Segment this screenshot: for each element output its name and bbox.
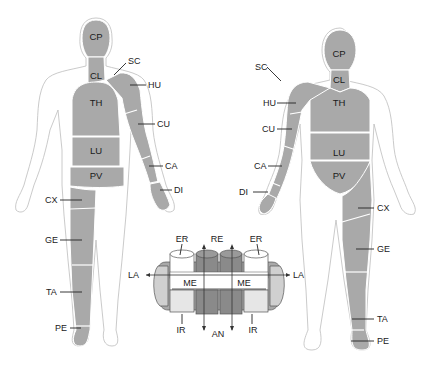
ring-label-LA-left: LA [128,270,139,280]
callout-GE: GE [45,235,58,245]
back-figure [16,18,175,346]
callout-SC: SC [128,56,141,66]
label-CL: CL [90,70,102,81]
callout-TA: TA [377,314,388,324]
label-LU: LU [333,147,345,158]
label-CP: CP [332,48,345,59]
callout-SC: SC [255,62,268,72]
label-PV: PV [333,170,346,181]
callout-HU: HU [263,98,276,108]
ring-label-IR-left: IR [177,325,187,335]
callout-PE: PE [377,336,389,346]
ring-label-IR-right: IR [249,325,259,335]
callout-CA: CA [165,161,178,171]
ring-label-ME-right: ME [237,278,251,288]
callout-CU: CU [157,119,170,129]
ring-label-ER-right: ER [250,234,263,244]
label-CP: CP [89,31,102,42]
dermatome-diagram: CP CL TH LU PV SC HU CU CA DI CX GE TA P… [0,0,439,368]
label-PV: PV [90,170,103,181]
label-TH: TH [90,97,103,108]
callout-DI: DI [239,187,248,197]
callout-CA: CA [254,161,267,171]
ring-label-RE: RE [211,234,224,244]
callout-GE: GE [377,244,390,254]
callout-CX: CX [377,203,390,213]
label-TH: TH [333,97,346,108]
callout-CX: CX [45,195,58,205]
front-seg-hand [259,194,276,214]
label-CL: CL [333,74,345,85]
callout-HU: HU [148,80,161,90]
ring-label-AN: AN [212,329,225,339]
back-seg-TH [72,82,120,136]
callout-TA: TA [46,287,57,297]
ring-label-ER-left: ER [176,234,189,244]
back-seg-hand [150,182,170,210]
callout-DI: DI [174,185,183,195]
ring-diagram [146,244,290,331]
label-LU: LU [90,145,102,156]
callout-PE: PE [55,323,67,333]
ring-label-ME-left: ME [183,278,197,288]
callout-CU: CU [262,124,275,134]
ring-label-LA-right: LA [293,270,304,280]
